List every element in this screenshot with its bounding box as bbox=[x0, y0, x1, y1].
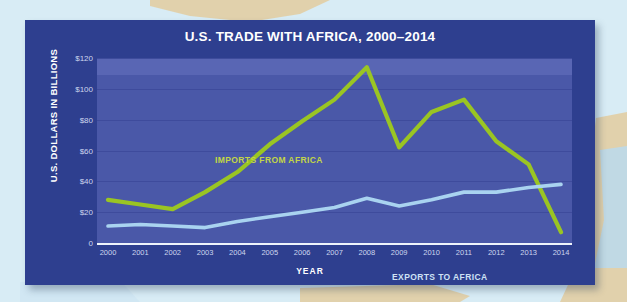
series-label-imports: IMPORTS FROM AFRICA bbox=[215, 155, 323, 165]
x-tick-label: 2003 bbox=[197, 248, 214, 257]
x-tick-label: 2014 bbox=[553, 248, 570, 257]
page-title: U.S. TRADE WITH AFRICA, 2000–2014 bbox=[25, 29, 595, 44]
x-tick-label: 2005 bbox=[261, 248, 278, 257]
y-tick-label: $120 bbox=[75, 54, 93, 63]
x-tick-label: 2004 bbox=[229, 248, 246, 257]
y-tick-label: $20 bbox=[80, 208, 93, 217]
x-tick-label: 2006 bbox=[294, 248, 311, 257]
x-axis-baseline bbox=[97, 243, 572, 245]
series-layer bbox=[97, 58, 572, 243]
x-tick-label: 2009 bbox=[391, 248, 408, 257]
y-tick-label: 0 bbox=[89, 239, 93, 248]
y-tick-label: $100 bbox=[75, 84, 93, 93]
chart-panel: U.S. TRADE WITH AFRICA, 2000–2014 U.S. D… bbox=[25, 20, 595, 285]
x-axis-title: YEAR bbox=[25, 266, 595, 276]
x-tick-label: 2010 bbox=[423, 248, 440, 257]
x-axis-ticks: 2000200120022003200420052006200720082009… bbox=[97, 248, 572, 262]
x-tick-label: 2001 bbox=[132, 248, 149, 257]
x-tick-label: 2013 bbox=[520, 248, 537, 257]
y-tick-label: $80 bbox=[80, 115, 93, 124]
x-tick-label: 2012 bbox=[488, 248, 505, 257]
plot-wrapper: IMPORTS FROM AFRICA EXPORTS TO AFRICA bbox=[97, 58, 572, 243]
y-axis-ticks: $120$100$80$60$40$200 bbox=[59, 58, 93, 243]
x-tick-label: 2007 bbox=[326, 248, 343, 257]
y-axis-title: U.S. DOLLARS IN BILLIONS bbox=[48, 41, 59, 191]
x-tick-label: 2008 bbox=[359, 248, 376, 257]
x-tick-label: 2002 bbox=[164, 248, 181, 257]
x-tick-label: 2000 bbox=[100, 248, 117, 257]
y-tick-label: $60 bbox=[80, 146, 93, 155]
x-tick-label: 2011 bbox=[456, 248, 472, 257]
y-tick-label: $40 bbox=[80, 177, 93, 186]
